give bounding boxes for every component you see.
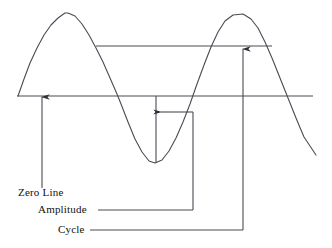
amplitude-label: Amplitude [38,204,87,215]
waveform-curve [18,13,316,163]
waveform-diagram: Zero Line Amplitude Cycle [0,0,332,248]
zero-line-label: Zero Line [18,187,63,198]
cycle-label: Cycle [58,224,85,235]
